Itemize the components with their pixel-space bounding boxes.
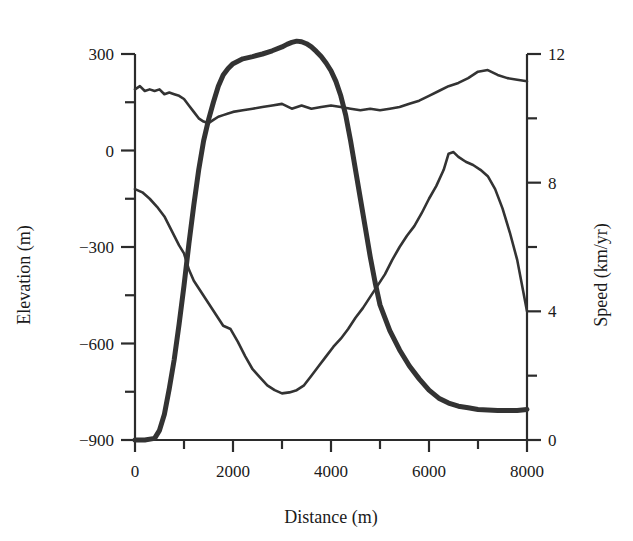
y-axis-right-tick-label: 8 xyxy=(548,174,557,193)
series-line-surface-speed xyxy=(135,70,527,123)
x-axis-ticks xyxy=(135,440,527,452)
y-axis-right-tick-label: 0 xyxy=(548,431,557,450)
y-axis-left-tick-label: 300 xyxy=(89,45,115,64)
y-axis-right-ticks xyxy=(527,54,541,440)
y-axis-left-tick-label: −600 xyxy=(79,335,114,354)
y-axis-right-tick-label: 4 xyxy=(548,302,557,321)
y-axis-left-tick-label: 0 xyxy=(106,142,115,161)
x-axis-tick-label: 4000 xyxy=(314,462,348,481)
y-axis-left-tick-label: −900 xyxy=(79,431,114,450)
y-axis-right-tick-label: 12 xyxy=(548,45,565,64)
elevation-speed-chart: 02000400060008000 −900−600−3000300 04812… xyxy=(0,0,633,541)
x-axis-tick-label: 0 xyxy=(131,462,140,481)
y-axis-right-tick-labels: 04812 xyxy=(548,45,565,450)
y-axis-left-title: Elevation (m) xyxy=(14,225,35,324)
chart-figure: 02000400060008000 −900−600−3000300 04812… xyxy=(0,0,633,541)
y-axis-right-title: Speed (km/yr) xyxy=(591,223,612,326)
y-axis-left-tick-labels: −900−600−3000300 xyxy=(79,45,114,450)
y-axis-left-tick-label: −300 xyxy=(79,238,114,257)
x-axis-tick-label: 2000 xyxy=(216,462,250,481)
x-axis-tick-label: 6000 xyxy=(412,462,446,481)
series-line-ice-surface-elevation xyxy=(135,41,527,440)
data-curves xyxy=(135,41,527,440)
x-axis-tick-labels: 02000400060008000 xyxy=(131,462,544,481)
y-axis-left-ticks xyxy=(121,54,135,440)
x-axis-title: Distance (m) xyxy=(284,507,377,528)
x-axis-tick-label: 8000 xyxy=(510,462,544,481)
